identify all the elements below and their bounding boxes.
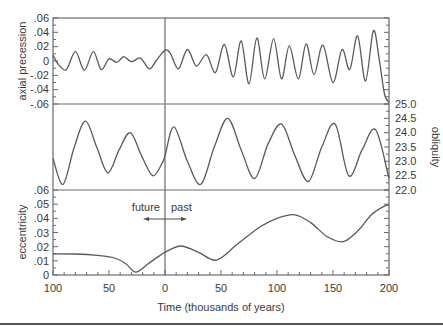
- x-tick-label: 50: [103, 282, 115, 294]
- y-tick-label: 23.0: [395, 155, 416, 167]
- x-tick-label: 200: [380, 282, 398, 294]
- obliquity-y-labels: 25.0 24.5 24.0 23.5 23.0 22.5 22.0: [395, 98, 416, 196]
- y-tick-label: .03: [34, 227, 49, 239]
- y-tick-label: 25.0: [395, 98, 416, 110]
- x-axis-labels: 100 50 0 50 100 150 200: [44, 282, 398, 294]
- eccentricity-axis-title: eccentricity: [16, 204, 28, 260]
- precession-axis-title: axial precession: [16, 22, 28, 101]
- y-tick-label: 22.0: [395, 184, 416, 196]
- x-tick-label: 0: [162, 282, 168, 294]
- y-tick-label: 24.5: [395, 112, 416, 124]
- y-tick-label: .02: [34, 241, 49, 253]
- y-tick-label: .04: [34, 212, 49, 224]
- obliquity-axis-title: obliquity: [430, 127, 442, 168]
- x-tick-label: 100: [44, 282, 62, 294]
- past-label: past: [171, 201, 192, 213]
- axis-ticks: [53, 18, 389, 275]
- milankovitch-chart: .06 .04 .02 0 -.02 -.04 -.06 axial prece…: [0, 0, 443, 329]
- plot-frame: [53, 18, 389, 275]
- y-tick-label: 22.5: [395, 169, 416, 181]
- x-tick-label: 150: [324, 282, 342, 294]
- y-tick-label: .04: [34, 26, 49, 38]
- y-tick-label: .06: [34, 12, 49, 24]
- y-tick-label: .01: [34, 255, 49, 267]
- y-tick-label: -.02: [30, 69, 49, 81]
- future-label: future: [132, 201, 160, 213]
- y-tick-label: -.06: [30, 98, 49, 110]
- precession-curve: [53, 30, 389, 102]
- y-tick-label: 0: [43, 269, 49, 281]
- y-tick-label: 23.5: [395, 141, 416, 153]
- bottom-rule: [0, 323, 443, 325]
- y-tick-label: .06: [34, 184, 49, 196]
- x-axis-title: Time (thousands of years): [157, 301, 284, 313]
- precession-y-labels: .06 .04 .02 0 -.02 -.04 -.06: [30, 12, 49, 110]
- x-tick-label: 50: [215, 282, 227, 294]
- eccentricity-y-labels: .06 .05 .04 .03 .02 .01 0: [34, 184, 49, 281]
- y-tick-label: .02: [34, 40, 49, 52]
- panel-frames: [53, 18, 389, 275]
- eccentricity-curve: [53, 205, 389, 272]
- y-tick-label: -.04: [30, 83, 49, 95]
- x-tick-label: 100: [268, 282, 286, 294]
- obliquity-curve: [53, 118, 389, 184]
- y-tick-label: .05: [34, 198, 49, 210]
- y-tick-label: 24.0: [395, 126, 416, 138]
- y-tick-label: 0: [43, 55, 49, 67]
